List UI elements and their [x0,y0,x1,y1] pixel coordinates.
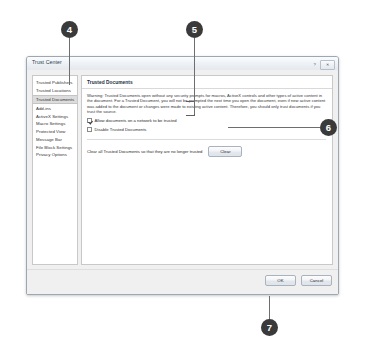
callout-7-leader [269,296,270,321]
clear-button[interactable]: Clear [208,146,242,157]
sidebar-item-trusted-documents[interactable]: Trusted Documents [33,95,77,105]
content-pane: Trusted Documents Warning: Trusted Docum… [81,75,333,265]
callout-4-leader [69,38,70,85]
trust-center-dialog: Trust Center ? ✕ Trusted Publishers Trus… [26,56,339,295]
sidebar-item-add-ins[interactable]: Add-ins [33,104,77,112]
checkbox-disable-trusted-documents-label: Disable Trusted Documents [95,127,147,132]
clear-description: Clear all Trusted Documents so that they… [87,149,202,154]
window-controls: ? ✕ [311,60,335,70]
callout-4: 4 [61,21,78,38]
sidebar-item-message-bar[interactable]: Message Bar [33,135,77,143]
footer-buttons: OK Cancel [265,275,332,286]
clear-row: Clear all Trusted Documents so that they… [82,146,332,157]
sidebar-item-privacy-options[interactable]: Privacy Options [33,151,77,159]
help-icon[interactable]: ? [311,61,318,69]
cancel-button[interactable]: Cancel [301,275,332,286]
checkbox-allow-network-icon[interactable] [87,118,92,123]
dialog-body: Trusted Publishers Trusted Locations Tru… [27,70,338,270]
close-icon[interactable]: ✕ [320,60,335,70]
ok-button[interactable]: OK [265,275,296,286]
sidebar-item-macro-settings[interactable]: Macro Settings [33,120,77,128]
callout-7: 7 [261,319,278,336]
callout-5: 5 [186,21,203,38]
sidebar-item-activex-settings[interactable]: ActiveX Settings [33,112,77,120]
dialog-title: Trust Center [32,59,62,65]
sidebar-item-protected-view[interactable]: Protected View [33,128,77,136]
sidebar-item-file-block-settings[interactable]: File Block Settings [33,143,77,151]
dialog-titlebar[interactable]: Trust Center ? ✕ [27,57,338,71]
callout-6-leader [228,127,320,128]
checkbox-row-allow-network[interactable]: Allow documents on a network to be trust… [82,118,332,123]
settings-sidebar: Trusted Publishers Trusted Locations Tru… [32,75,78,265]
dialog-footer: OK Cancel [27,269,338,294]
callout-5-leader [194,38,195,114]
warning-text: Warning: Trusted Documents open without … [82,89,332,115]
sidebar-item-trusted-locations[interactable]: Trusted Locations [33,87,77,95]
checkbox-disable-trusted-documents-icon[interactable] [87,127,92,132]
checkbox-allow-network-label: Allow documents on a network to be trust… [95,118,177,123]
sidebar-item-trusted-publishers[interactable]: Trusted Publishers [33,79,77,87]
content-divider [87,139,326,140]
callout-6: 6 [320,119,337,136]
pane-heading: Trusted Documents [82,76,332,89]
